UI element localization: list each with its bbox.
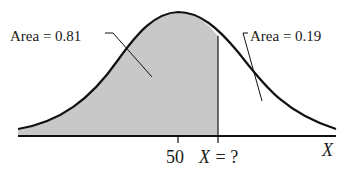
left-area-label: Area = 0.81 — [10, 28, 81, 44]
mean-tick-label: 50 — [166, 147, 184, 167]
cutoff-var: X — [198, 147, 211, 167]
normal-curve-diagram: Area = 0.81 Area = 0.19 50 X = ? X — [0, 0, 352, 172]
cutoff-rest: = ? — [216, 147, 239, 167]
cutoff-label: X = ? — [198, 147, 238, 167]
axis-label: X — [321, 140, 334, 160]
right-area-label: Area = 0.19 — [250, 28, 321, 44]
